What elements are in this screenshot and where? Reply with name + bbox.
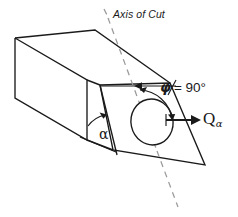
q-vector-arrowhead-icon [191, 115, 201, 125]
phi-angle-label: φ = 90° [160, 80, 206, 95]
phi-symbol: φ [160, 80, 171, 94]
figure-container: Axis of Cut φ = 90° Q α α [0, 0, 238, 217]
q-symbol: Q [203, 110, 215, 127]
alpha-angle-label: α [99, 127, 108, 141]
q-vector-label: Q α [203, 110, 222, 127]
phi-value: = 90° [174, 81, 206, 95]
axis-of-cut-label-tick [104, 9, 109, 19]
axis-of-cut-label: Axis of Cut [113, 9, 165, 20]
q-subscript-alpha: α [216, 119, 223, 129]
